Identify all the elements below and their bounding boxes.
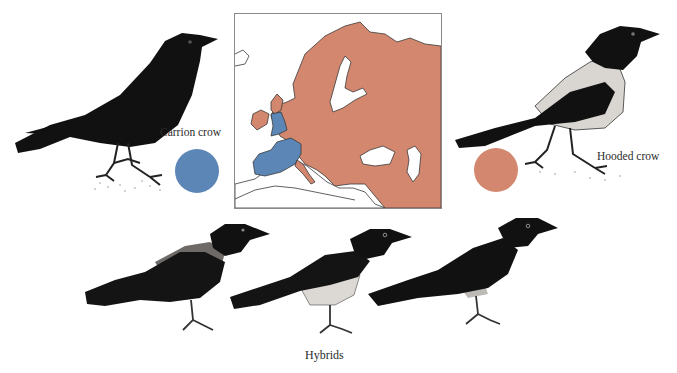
- ground-stipple: [539, 171, 621, 181]
- ground-stipple: [94, 180, 161, 192]
- hooded-crow-eye: [631, 32, 635, 36]
- hooded-crow-label: Hooded crow: [597, 150, 659, 162]
- hooded-crow-color-swatch: [474, 148, 518, 192]
- hybrid-3-legs: [466, 296, 500, 324]
- iceland-outline: [235, 50, 249, 66]
- carrion-crow-eye: [188, 40, 192, 44]
- hooded-crow-legs: [525, 126, 607, 174]
- hybrid-crow-3: [368, 214, 558, 329]
- hybrid-3-head: [498, 218, 558, 248]
- europe-range-map: [234, 13, 442, 209]
- hooded-crow-wing: [455, 82, 615, 148]
- hybrid-1-body: [85, 252, 225, 306]
- carrion-crow-label: Carrion crow: [160, 126, 221, 138]
- hybrid-1-legs: [183, 300, 213, 330]
- hooded-crow-head: [585, 26, 660, 70]
- hybrid-2-legs: [320, 305, 352, 333]
- hybrids-label: Hybrids: [305, 348, 344, 363]
- hybrid-3-body: [368, 238, 518, 306]
- carrion-crow-legs: [96, 143, 162, 185]
- ireland: [251, 110, 269, 130]
- carrion-crow-color-swatch: [175, 149, 219, 193]
